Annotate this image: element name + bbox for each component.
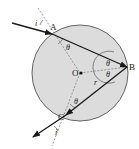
label-theta-a: θ	[66, 43, 70, 52]
droplet-diagram: A B C O r θ θ θ θ i i	[0, 0, 139, 149]
label-a: A	[50, 22, 57, 32]
label-o: O	[72, 68, 79, 78]
angle-arc-i-top	[40, 20, 43, 25]
label-b: B	[129, 62, 135, 72]
label-c: C	[58, 112, 64, 122]
label-theta-c: θ	[74, 97, 78, 106]
label-theta-b-bottom: θ	[106, 70, 110, 79]
label-theta-b-top: θ	[106, 59, 110, 68]
label-i-bottom: i	[55, 128, 57, 137]
incident-ray	[12, 23, 52, 34]
label-i-top: i	[35, 19, 37, 28]
center-dot	[79, 71, 82, 74]
